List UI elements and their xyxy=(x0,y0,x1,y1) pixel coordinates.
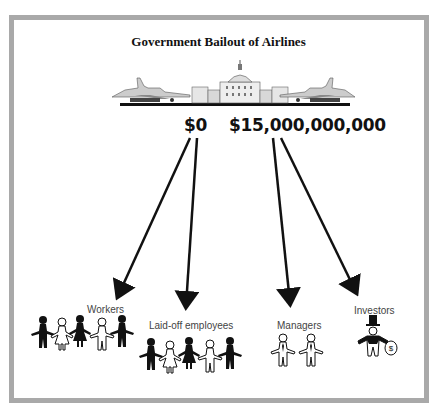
person-icon xyxy=(90,318,114,350)
investor-figure: $ xyxy=(358,315,397,356)
person-icon xyxy=(159,341,181,373)
person-icon xyxy=(198,340,222,372)
managers-group xyxy=(271,334,323,366)
workers-group xyxy=(31,315,134,350)
person-icon xyxy=(31,316,55,348)
manager-icon xyxy=(271,334,295,366)
person-icon xyxy=(69,315,91,347)
svg-text:$: $ xyxy=(389,344,394,353)
manager-icon xyxy=(299,334,323,366)
person-icon xyxy=(110,315,134,347)
top-hat-icon xyxy=(369,315,377,325)
laid-off-group xyxy=(139,337,242,373)
person-icon xyxy=(178,337,200,369)
people-figures: $ xyxy=(0,0,437,412)
person-icon xyxy=(139,338,163,370)
person-icon xyxy=(218,337,242,369)
